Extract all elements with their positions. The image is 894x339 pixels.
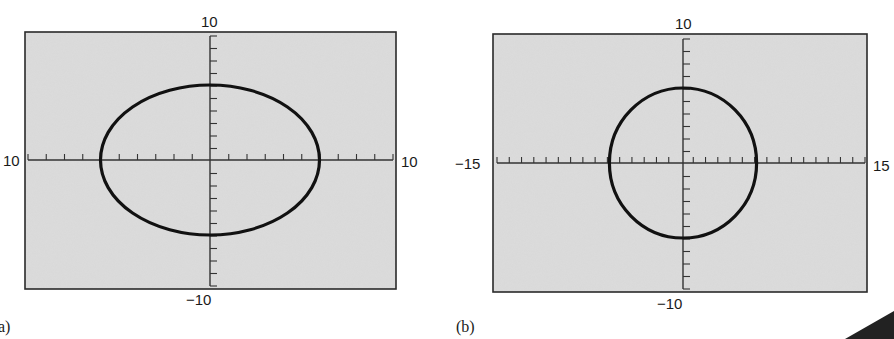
panel-a-ymin-label: −10 xyxy=(186,292,211,308)
panel-b-ymin-label: −10 xyxy=(657,296,682,312)
graph-panel-a xyxy=(25,32,396,289)
graph-panel-b xyxy=(493,34,867,292)
panel-b-ymax-label: 10 xyxy=(675,16,692,32)
panel-a-ymax-label: 10 xyxy=(201,14,218,30)
panel-b-caption: (b) xyxy=(456,318,475,336)
panel-a-xmin-label: 10 xyxy=(3,153,20,169)
page-corner-mark xyxy=(845,311,894,339)
panel-a-xmax-label: 10 xyxy=(401,154,418,170)
panel-a-caption: a) xyxy=(0,318,10,336)
panel-b-xmin-label: −15 xyxy=(455,156,480,172)
chart-canvas xyxy=(0,0,894,339)
panel-b-xmax-label: 15 xyxy=(873,158,890,174)
